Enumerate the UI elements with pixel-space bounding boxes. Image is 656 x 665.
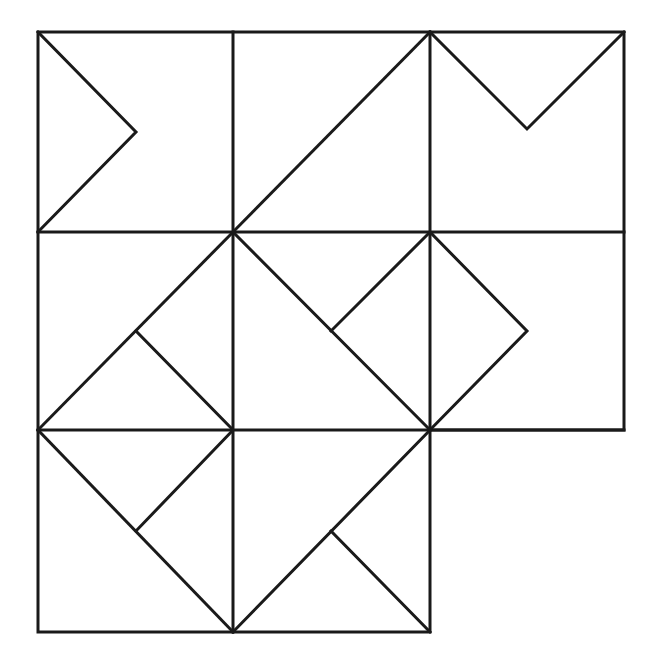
geometric-tile-pattern-figure	[0, 0, 656, 665]
